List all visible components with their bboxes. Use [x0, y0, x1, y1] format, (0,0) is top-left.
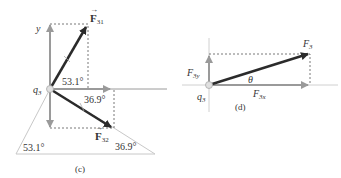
- f32-label: F32: [95, 130, 109, 144]
- f3x-label: F3x: [252, 88, 267, 101]
- f3y-label: F3y: [186, 67, 201, 80]
- q3-label-c: q3: [33, 84, 42, 97]
- caption-d: (d): [235, 102, 246, 112]
- angle-upper: 53.1°: [62, 76, 84, 87]
- triangle-right-angle: 36.9°: [115, 141, 137, 152]
- angle-lower: 36.9°: [84, 94, 106, 105]
- diagram-canvas: y q3 F31 → F32 → 53.1° 36.9° 53.1° 36.9°…: [0, 0, 341, 178]
- f3-label: F3: [302, 38, 313, 51]
- theta-label: θ: [248, 74, 253, 85]
- f31-label: F31: [90, 12, 104, 26]
- f3-vector: [209, 54, 308, 85]
- f32-arrow-glyph: →: [95, 123, 103, 132]
- charge-q3-d: [206, 82, 213, 89]
- charge-q3-c: [47, 86, 54, 93]
- y-axis-label: y: [35, 23, 41, 34]
- f31-arrow-glyph: →: [90, 5, 98, 14]
- q3-label-d: q3: [197, 91, 206, 104]
- panel-d: F3 F3y F3x θ q3 (d): [182, 38, 338, 112]
- panel-c: y q3 F31 → F32 → 53.1° 36.9° 53.1° 36.9°…: [16, 5, 167, 174]
- caption-c: (c): [75, 164, 85, 174]
- triangle-left-angle: 53.1°: [23, 142, 45, 153]
